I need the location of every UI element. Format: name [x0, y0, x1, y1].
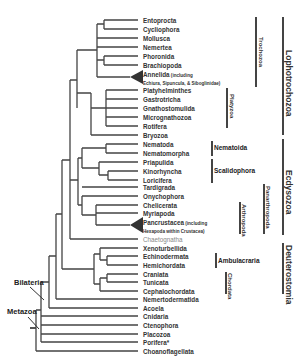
leaf-porifera: Porifera* [143, 339, 169, 346]
group-label-ambulacraria: Ambulacraria [218, 257, 260, 264]
trochozoa-bar [255, 17, 257, 87]
leaf-phoronida: Phoronida [143, 53, 174, 60]
leaf-tunicata: Tunicata [143, 279, 168, 286]
leaf-chelicerata: Chelicerata [143, 202, 177, 209]
leaf-mollusca: Mollusca [143, 35, 170, 42]
leaf-pancrustacea: Pancrustacea (including Hexapoda within … [143, 219, 207, 235]
leaf-gastrotricha: Gastrotricha [143, 96, 180, 103]
leaf-xenoturbellida: Xenoturbellida [143, 245, 187, 252]
group-label-deuterostomia: Deuterostomia [284, 245, 294, 305]
leaf-brachiopoda: Brachiopoda [143, 62, 182, 69]
leaf-myriapoda: Myriapoda [143, 210, 175, 217]
leaf-acoela: Acoela [143, 305, 164, 312]
group-label-nematoida: Nematoida [214, 144, 247, 151]
group-label-platyzoa: Platyzoa [229, 94, 235, 118]
leaf-annelida-sub2: Echiura, Sipuncula, & Siboglinidae) [143, 81, 220, 86]
leaf-annelida: Annelida (including Echiura, Sipuncula, … [143, 71, 220, 87]
leaf-pancrustacea-sub1: (including [184, 221, 207, 226]
scalidophora-bar [211, 159, 213, 183]
leaf-micrognathozoa: Micrognathozoa [143, 114, 191, 121]
leaf-placozoa: Placozoa [143, 331, 170, 338]
leaf-cycliophora: Cycliophora [143, 26, 179, 33]
leaf-cephalochordata: Cephalochordata [143, 288, 194, 295]
leaf-pancrustacea-sub2: Hexapoda within Crustacea) [143, 229, 205, 234]
leaf-annelida-sub1: (including [170, 73, 193, 78]
ambulacraria-bar [215, 253, 217, 268]
group-label-arthropoda: Arthropoda [241, 204, 247, 237]
leaf-bryozoa: Bryozoa [143, 132, 168, 139]
leaf-nematoda: Nematoda [143, 141, 173, 148]
leaf-nemertodermatida: Nemertodermatida [143, 296, 199, 303]
leaf-ctenophora: Ctenophora [143, 322, 178, 329]
leaf-entoprocta: Entoprocta [143, 17, 176, 24]
node-label-bilateria: Bilateria [14, 278, 44, 287]
leaf-choanoflagellata: Choanoflagellata [143, 348, 194, 355]
node-label-metazoa: Metazoa [7, 307, 37, 316]
leaf-hemichordata: Hemichordata [143, 262, 185, 269]
leaf-onychophora: Onychophora [143, 193, 184, 200]
group-label-scalidophora: Scalidophora [214, 167, 255, 174]
group-label-trochozoa: Trochozoa [258, 37, 264, 67]
leaf-annelida-label: Annelida [143, 71, 170, 78]
leaf-gnathostomulida: Gnathostomulida [143, 105, 195, 112]
group-label-chordata: Chordata [227, 273, 233, 299]
group-label-lophotrochozoa: Lophotrochozoa [284, 50, 294, 117]
nematoida-bar [211, 141, 213, 156]
leaf-platyhelminthes: Platyhelminthes [143, 87, 191, 94]
leaf-nemertea: Nemertea [143, 44, 172, 51]
platyzoa-bar [226, 88, 228, 128]
leaf-pancrustacea-label: Pancrustacea [143, 219, 184, 226]
leaf-cnidaria: Cnidaria [143, 313, 168, 320]
leaf-loricifera: Loricifera [143, 177, 172, 184]
leaf-echinodermata: Echinodermata [143, 253, 189, 260]
leaf-craniata: Craniata [143, 271, 168, 278]
leaf-chaetognatha: Chaetognatha [143, 236, 183, 243]
leaf-priapulida: Priapulida [143, 159, 173, 166]
leaf-kinorhyncha: Kinorhyncha [143, 168, 182, 175]
leaf-rotifera: Rotifera [143, 123, 167, 130]
group-label-panarthropoda: Panarthropoda [265, 186, 271, 229]
group-label-ecdysozoa: Ecdysozoa [284, 170, 294, 214]
leaf-nematomorpha: Nematomorpha [143, 150, 189, 157]
leaf-tardigrada: Tardigrada [143, 184, 175, 191]
